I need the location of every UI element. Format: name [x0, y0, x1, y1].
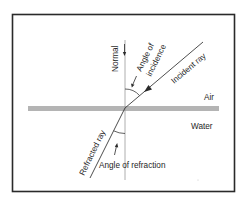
angle-of-refraction-label: Angle of refraction	[99, 161, 166, 170]
normal-label: Normal	[111, 45, 120, 72]
print-speck	[198, 180, 199, 181]
water-label: Water	[191, 122, 213, 131]
refraction-diagram: Normal Angle of incidence Incident ray A…	[0, 0, 249, 204]
air-label: Air	[204, 93, 214, 102]
